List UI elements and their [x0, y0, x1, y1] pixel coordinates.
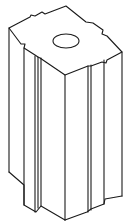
top-hole — [53, 34, 79, 48]
pillar-drawing — [0, 0, 131, 223]
right-face — [65, 52, 122, 220]
pillar-diagram — [0, 0, 131, 223]
